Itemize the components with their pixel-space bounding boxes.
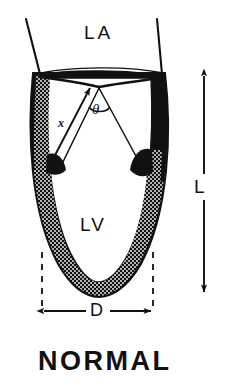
length-measure-label: L — [194, 176, 205, 198]
heart-diagram-figure: LA LV θ x D L NORMAL — [0, 0, 226, 386]
myocardium-wall — [20, 60, 185, 310]
diameter-measure-label: D — [90, 300, 103, 321]
left-atrium-label: LA — [84, 22, 113, 44]
x-measure-label: x — [58, 116, 64, 131]
figure-caption: NORMAL — [38, 346, 171, 377]
diagram-canvas — [0, 0, 226, 386]
left-ventricle-label: LV — [80, 214, 106, 236]
theta-angle-label: θ — [92, 101, 99, 118]
